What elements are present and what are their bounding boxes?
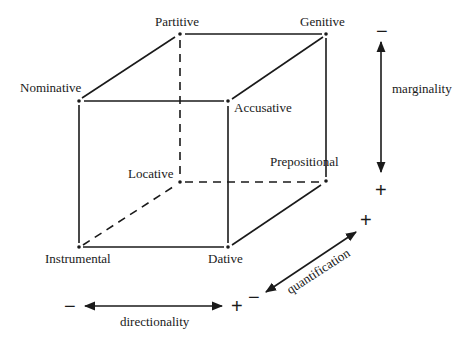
marginality-plus: + [375, 180, 387, 200]
edge-dative-prepositional [232, 185, 321, 245]
case-cube-diagram [0, 0, 473, 342]
vertex-dative [226, 245, 230, 249]
directionality-minus: − [64, 296, 76, 316]
quantification-minus: − [248, 287, 260, 307]
edge-nominative-partitive [82, 37, 175, 98]
vertex-locative [178, 180, 182, 184]
vertex-accusative [226, 99, 230, 103]
label-dative: Dative [208, 252, 243, 266]
vertex-prepositional [324, 179, 328, 183]
vertex-partitive [178, 32, 182, 36]
edge-instrumental-locative [83, 185, 176, 245]
label-nominative: Nominative [20, 81, 81, 95]
label-prepositional: Prepositional [270, 155, 339, 169]
vertex-instrumental [77, 245, 81, 249]
label-partitive: Partitive [155, 15, 199, 29]
vertex-genitive [324, 32, 328, 36]
edge-accusative-genitive [232, 37, 323, 99]
label-instrumental: Instrumental [45, 252, 111, 266]
quantification-plus: + [360, 210, 372, 230]
label-locative: Locative [128, 167, 173, 181]
vertex-nominative [77, 99, 81, 103]
label-genitive: Genitive [300, 15, 345, 29]
marginality-label: marginality [392, 82, 452, 96]
directionality-plus: + [231, 296, 243, 316]
label-accusative: Accusative [234, 101, 292, 115]
directionality-label: directionality [120, 315, 189, 329]
marginality-minus: − [376, 21, 388, 41]
